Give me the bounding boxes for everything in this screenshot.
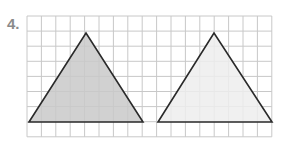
- grid-figure: [0, 0, 290, 155]
